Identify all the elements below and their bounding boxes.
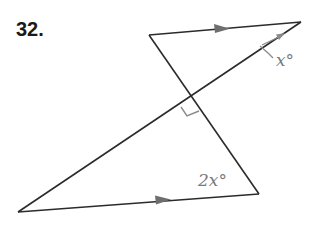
angle-label-2x: 2x° bbox=[197, 170, 227, 190]
angle-tick bbox=[260, 46, 273, 58]
parallel-arrow-icon bbox=[155, 196, 171, 205]
parallel-arrow-icon bbox=[214, 24, 230, 33]
angle-label-x: x° bbox=[276, 50, 294, 70]
leader-arrow-icon bbox=[276, 33, 285, 40]
bottom-side bbox=[18, 194, 259, 212]
geometry-figure: x° 2x° bbox=[0, 0, 330, 237]
right-angle-marker bbox=[181, 107, 199, 116]
